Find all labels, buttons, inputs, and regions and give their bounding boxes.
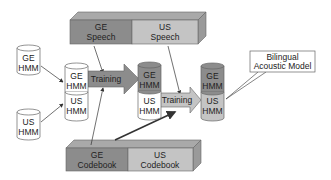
stack3-ge-hmm-label: HMM bbox=[202, 81, 222, 91]
diagram-canvas: GE Speech US Speech GE Codebook US Codeb… bbox=[0, 0, 331, 180]
us-codebook-label-2: Codebook bbox=[141, 160, 181, 170]
stack1-us-hmm-label: HMM bbox=[66, 106, 86, 116]
us-hmm-input-label-1: US bbox=[23, 117, 35, 127]
codebook-box: GE Codebook US Codebook bbox=[66, 140, 201, 171]
us-speech-label-2: Speech bbox=[151, 32, 180, 42]
us-hmm-input-label-2: HMM bbox=[18, 127, 38, 137]
training-arrow-2: Training bbox=[160, 87, 201, 113]
ge-speech-label-2: Speech bbox=[87, 32, 116, 42]
us-codebook-label-1: US bbox=[154, 150, 166, 160]
us-hmm-input-cylinder: US HMM bbox=[17, 109, 40, 140]
hmm-stack-1: GE HMM US HMM bbox=[65, 63, 88, 121]
us-speech-label-1: US bbox=[159, 22, 171, 32]
ge-codebook-label-1: GE bbox=[91, 150, 104, 160]
stack1-ge-label: GE bbox=[70, 71, 83, 81]
training-arrow-1: Training bbox=[88, 64, 139, 94]
speech-box: GE Speech US Speech bbox=[70, 12, 206, 44]
stack2-ge-hmm-label: HMM bbox=[139, 80, 159, 90]
ge-hmm-input-cylinder: GE HMM bbox=[17, 45, 40, 75]
stack2-us-label: US bbox=[144, 96, 156, 106]
bilingual-label-2: Acoustic Model bbox=[254, 61, 312, 71]
ge-hmm-input-label-2: HMM bbox=[18, 63, 38, 73]
stack1-us-label: US bbox=[71, 96, 83, 106]
ge-codebook-label-2: Codebook bbox=[78, 160, 118, 170]
stack2-ge-label: GE bbox=[143, 70, 156, 80]
hmm-stack-2: GE HMM US HMM bbox=[138, 62, 161, 120]
training-label-2: Training bbox=[162, 95, 193, 105]
training-label-1: Training bbox=[91, 74, 122, 84]
stack1-ge-hmm-label: HMM bbox=[66, 81, 86, 91]
stack3-us-label: US bbox=[207, 96, 219, 106]
ge-speech-label-1: GE bbox=[95, 22, 108, 32]
stack3-us-hmm-label: HMM bbox=[202, 106, 222, 116]
hmm-stack-3: GE HMM US HMM bbox=[201, 63, 224, 121]
stack3-ge-label: GE bbox=[206, 71, 219, 81]
bilingual-model-callout: Bilingual Acoustic Model bbox=[250, 51, 315, 72]
ge-hmm-input-label-1: GE bbox=[22, 53, 35, 63]
stack2-us-hmm-label: HMM bbox=[139, 106, 159, 116]
